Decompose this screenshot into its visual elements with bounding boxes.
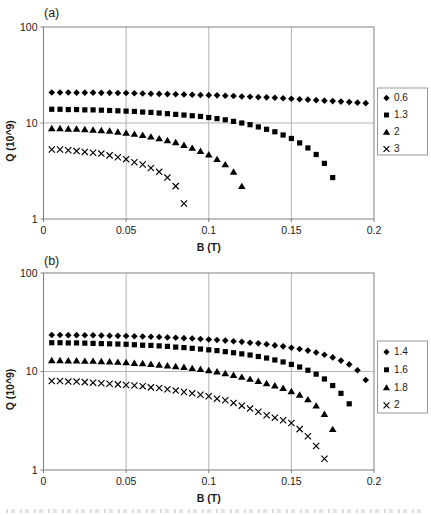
diamond-marker xyxy=(214,337,221,344)
chart-panel-a: 00.050.10.150.2110100B (T)Q (10^9)(a)0.6… xyxy=(4,6,428,253)
diamond-marker xyxy=(181,91,188,98)
data-point xyxy=(115,90,122,97)
x-marker xyxy=(189,390,195,396)
series-1-3 xyxy=(49,107,335,181)
diamond-marker xyxy=(197,336,204,343)
square-marker xyxy=(190,346,195,351)
data-point xyxy=(165,344,170,349)
square-marker xyxy=(223,117,228,122)
diamond-marker xyxy=(164,91,171,98)
x-marker xyxy=(272,415,278,421)
data-point xyxy=(230,338,237,345)
x-marker xyxy=(107,381,113,387)
square-marker xyxy=(107,341,112,346)
data-point xyxy=(239,93,246,100)
data-point xyxy=(131,130,139,136)
x-axis-title: B (T) xyxy=(197,241,221,253)
diamond-marker xyxy=(354,367,361,374)
diamond-marker xyxy=(313,97,320,104)
data-point xyxy=(289,362,294,367)
data-point xyxy=(107,341,112,346)
triangle-marker xyxy=(172,139,180,145)
data-point xyxy=(114,128,122,134)
data-point xyxy=(82,341,87,346)
data-point xyxy=(157,110,162,115)
data-point xyxy=(156,91,163,98)
square-marker xyxy=(198,114,203,119)
triangle-marker xyxy=(180,141,188,147)
data-point xyxy=(213,156,221,162)
data-point xyxy=(48,125,56,131)
data-point xyxy=(115,333,122,340)
data-point xyxy=(122,359,130,365)
square-marker xyxy=(90,107,95,112)
data-point xyxy=(198,114,203,119)
data-point xyxy=(139,360,147,366)
square-marker xyxy=(297,140,302,145)
data-point xyxy=(147,133,155,139)
square-marker xyxy=(272,129,277,134)
data-point xyxy=(354,367,361,374)
data-point xyxy=(148,165,154,171)
triangle-marker xyxy=(147,133,155,139)
square-marker xyxy=(99,341,104,346)
diamond-marker xyxy=(164,334,171,341)
triangle-marker xyxy=(98,358,106,364)
triangle-marker xyxy=(271,382,279,388)
square-marker xyxy=(74,340,79,345)
data-point xyxy=(239,351,244,356)
data-point xyxy=(190,346,195,351)
data-point xyxy=(281,132,286,137)
y-tick-label: 100 xyxy=(20,267,38,279)
data-point xyxy=(222,337,229,344)
triangle-marker xyxy=(321,411,329,417)
data-point xyxy=(230,372,238,378)
data-point xyxy=(362,100,369,107)
triangle-marker xyxy=(81,357,89,363)
diamond-marker xyxy=(181,335,188,342)
data-point xyxy=(346,99,353,106)
data-point xyxy=(321,456,327,462)
x-tick-label: 0 xyxy=(41,224,47,236)
data-point xyxy=(238,183,246,189)
data-point xyxy=(321,97,328,104)
diamond-marker xyxy=(148,334,155,341)
data-point xyxy=(330,175,335,180)
data-point xyxy=(64,125,72,131)
data-point xyxy=(156,334,163,341)
triangle-marker xyxy=(230,168,238,174)
square-marker xyxy=(206,347,211,352)
data-point xyxy=(123,333,130,340)
data-point xyxy=(172,139,180,145)
square-marker xyxy=(264,127,269,132)
data-point xyxy=(173,387,179,393)
data-point xyxy=(148,343,153,348)
square-marker xyxy=(49,107,54,112)
x-marker xyxy=(222,397,228,403)
square-marker xyxy=(115,341,120,346)
data-point xyxy=(90,380,96,386)
data-point xyxy=(280,95,287,102)
data-point xyxy=(57,332,64,339)
data-point xyxy=(338,391,343,396)
data-point xyxy=(255,409,261,415)
data-point xyxy=(197,336,204,343)
data-point xyxy=(296,391,304,397)
square-marker xyxy=(289,362,294,367)
triangle-marker xyxy=(221,370,229,376)
triangle-marker xyxy=(164,362,172,368)
data-point xyxy=(148,110,153,115)
x-tick-label: 0.05 xyxy=(116,224,137,236)
triangle-marker xyxy=(197,148,205,154)
data-point xyxy=(223,117,228,122)
data-point xyxy=(296,96,303,103)
data-point xyxy=(172,334,179,341)
triangle-marker xyxy=(255,378,263,384)
data-point xyxy=(124,109,129,114)
data-point xyxy=(329,98,336,105)
data-point xyxy=(90,89,97,96)
square-marker xyxy=(214,116,219,121)
data-point xyxy=(107,152,113,158)
data-point xyxy=(304,396,312,402)
data-point xyxy=(206,115,211,120)
